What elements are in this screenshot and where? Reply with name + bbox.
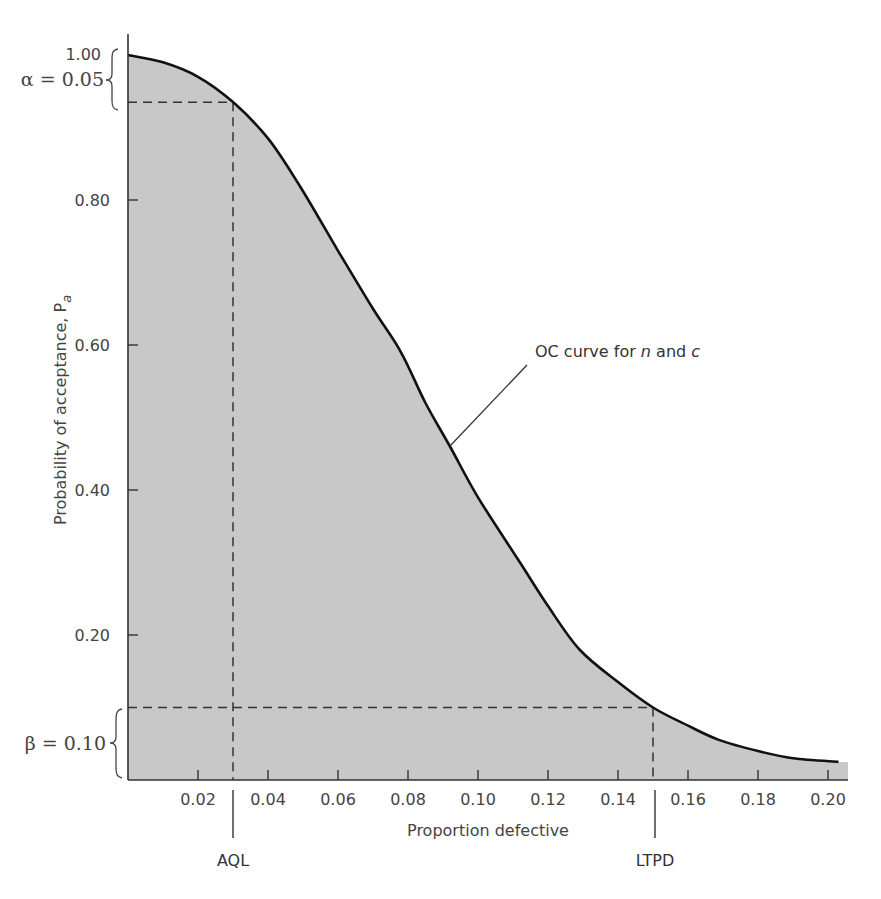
ltpd-label: LTPD bbox=[636, 851, 674, 870]
x-tick-label: 0.10 bbox=[460, 790, 496, 809]
x-tick-label: 0.06 bbox=[320, 790, 356, 809]
area-under-curve bbox=[128, 55, 848, 780]
y-axis-title: Probability of acceptance, Pa bbox=[51, 295, 74, 525]
y-tick-label: 0.80 bbox=[74, 191, 110, 210]
x-tick-label: 0.04 bbox=[250, 790, 286, 809]
curve-callout-leader bbox=[450, 365, 527, 446]
alpha-label: α = 0.05 bbox=[21, 68, 104, 90]
x-tick-label: 0.16 bbox=[670, 790, 706, 809]
aql-label: AQL bbox=[217, 851, 249, 870]
x-tick-label: 0.18 bbox=[740, 790, 776, 809]
x-tick-label: 0.02 bbox=[180, 790, 216, 809]
beta-brace-icon bbox=[110, 709, 122, 778]
oc-curve-chart: 0.200.400.600.801.00 0.020.040.060.080.1… bbox=[0, 0, 881, 899]
y-tick-label: 0.40 bbox=[74, 481, 110, 500]
x-tick-label: 0.12 bbox=[530, 790, 566, 809]
y-axis-ticks: 0.200.400.600.801.00 bbox=[65, 45, 138, 645]
alpha-brace-icon bbox=[106, 49, 118, 110]
x-tick-label: 0.20 bbox=[810, 790, 846, 809]
y-tick-label: 1.00 bbox=[65, 45, 101, 64]
x-tick-label: 0.14 bbox=[600, 790, 636, 809]
curve-callout-label: OC curve for n and c bbox=[535, 342, 700, 361]
y-tick-label: 0.60 bbox=[74, 336, 110, 355]
x-axis-title: Proportion defective bbox=[407, 821, 569, 840]
y-tick-label: 0.20 bbox=[74, 626, 110, 645]
x-tick-label: 0.08 bbox=[390, 790, 426, 809]
beta-label: β = 0.10 bbox=[25, 732, 106, 754]
